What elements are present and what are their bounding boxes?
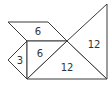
large-triangle-bottom-label: 12: [61, 62, 74, 73]
large-triangle-right-label: 12: [88, 39, 101, 50]
tangram-svg: 6 3 6 12 12: [0, 0, 112, 88]
parallelogram-label: 6: [35, 26, 41, 37]
small-triangle-label: 3: [17, 55, 23, 66]
medium-triangle-label: 6: [37, 48, 43, 59]
tangram-diagram: 6 3 6 12 12: [0, 0, 112, 88]
